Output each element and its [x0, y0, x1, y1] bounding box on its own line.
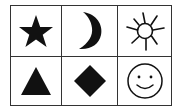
cell-sun	[118, 6, 171, 57]
cell-smiley-face	[118, 57, 171, 105]
sun-icon	[124, 10, 166, 52]
smiley-face-icon	[126, 62, 164, 100]
star-icon	[18, 14, 54, 48]
cell-star	[11, 6, 62, 57]
triangle-icon	[20, 66, 52, 96]
cell-crescent-moon	[62, 6, 118, 57]
diamond-icon	[73, 64, 107, 98]
crescent-moon-icon	[77, 11, 103, 51]
cell-diamond	[62, 57, 118, 105]
cell-triangle	[11, 57, 62, 105]
symbol-grid	[10, 5, 172, 106]
